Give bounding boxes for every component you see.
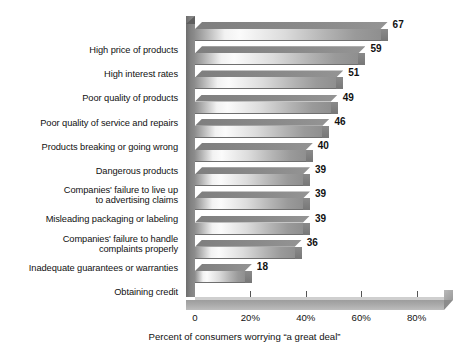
bar-value-label: 51 xyxy=(348,67,359,78)
bar-end-cap xyxy=(303,174,310,186)
value-axis-tick-label: 20% xyxy=(241,312,260,323)
plot-area: 6759514946403939393618 xyxy=(186,16,453,318)
bar-top-face xyxy=(195,22,388,29)
category-label: Poor quality of products xyxy=(82,93,178,103)
category-label: Dangerous products xyxy=(96,166,178,176)
axis-floor-front xyxy=(186,300,444,310)
value-axis-wall xyxy=(186,16,195,297)
bar-value-label: 39 xyxy=(315,188,326,199)
bar-end-cap xyxy=(303,223,310,235)
value-axis-wall-cap xyxy=(186,16,195,24)
bar-end-cap xyxy=(322,126,329,138)
category-label: Misleading packaging or labeling xyxy=(46,214,178,224)
bar-top-face xyxy=(195,70,343,77)
category-label: Obtaining credit xyxy=(114,287,178,297)
x-axis-title: Percent of consumers worrying “a great d… xyxy=(0,331,453,342)
category-axis-labels: High price of productsHigh interest rate… xyxy=(0,20,182,290)
bar-top-face xyxy=(195,216,310,223)
bar-front-face xyxy=(195,53,358,65)
bar-end-cap xyxy=(331,102,338,114)
bar-end-cap xyxy=(245,271,252,283)
bar-front-face xyxy=(195,29,381,41)
axis-floor-right-edge xyxy=(444,300,453,310)
bar-value-label: 18 xyxy=(257,261,268,272)
value-axis-tick-label: 80% xyxy=(407,312,426,323)
bar-front-face xyxy=(195,223,303,235)
bar-top-face xyxy=(195,46,365,53)
bar-chart: High price of productsHigh interest rate… xyxy=(0,0,453,352)
bar-top-face xyxy=(195,119,329,126)
bar-end-cap xyxy=(295,247,302,259)
category-label: Companies' failure to handle complaints … xyxy=(63,234,178,254)
bar-front-face xyxy=(195,77,336,89)
bar-front-face xyxy=(195,271,245,283)
bar-top-face xyxy=(195,264,252,271)
category-label: Inadequate guarantees or warranties xyxy=(29,263,178,273)
bar-top-face xyxy=(195,240,302,247)
bar-value-label: 39 xyxy=(315,213,326,224)
bar-end-cap xyxy=(336,77,343,89)
bar-front-face xyxy=(195,126,322,138)
bar-end-cap xyxy=(358,53,365,65)
bar-value-label: 36 xyxy=(307,237,318,248)
bar-end-cap xyxy=(303,198,310,210)
bar-top-face xyxy=(195,191,310,198)
value-axis-tick-label: 40% xyxy=(296,312,315,323)
bar-end-cap xyxy=(381,29,388,41)
category-label: High price of products xyxy=(89,45,178,55)
value-axis-labels: 020%40%60%80% xyxy=(186,312,453,326)
bar-top-face xyxy=(195,143,313,150)
value-axis-tick-label: 60% xyxy=(352,312,371,323)
bar-end-cap xyxy=(306,150,313,162)
axis-floor-rise xyxy=(444,290,453,300)
bar-front-face xyxy=(195,174,303,186)
bar-value-label: 40 xyxy=(318,140,329,151)
bar-value-label: 67 xyxy=(393,19,404,30)
bar-front-face xyxy=(195,198,303,210)
bar-top-face xyxy=(195,167,310,174)
bar-value-label: 46 xyxy=(334,116,345,127)
bar-top-face xyxy=(195,95,338,102)
bar-front-face xyxy=(195,247,295,259)
value-axis-tick-label: 0 xyxy=(192,312,197,323)
bar-value-label: 59 xyxy=(370,43,381,54)
bar-value-label: 49 xyxy=(343,92,354,103)
bar-front-face xyxy=(195,150,306,162)
bar-value-label: 39 xyxy=(315,164,326,175)
category-label: Products breaking or going wrong xyxy=(42,142,178,152)
category-label: Poor quality of service and repairs xyxy=(40,118,178,128)
category-label: High interest rates xyxy=(104,69,178,79)
bar-front-face xyxy=(195,102,331,114)
category-label: Companies' failure to live up to adverti… xyxy=(64,185,178,205)
